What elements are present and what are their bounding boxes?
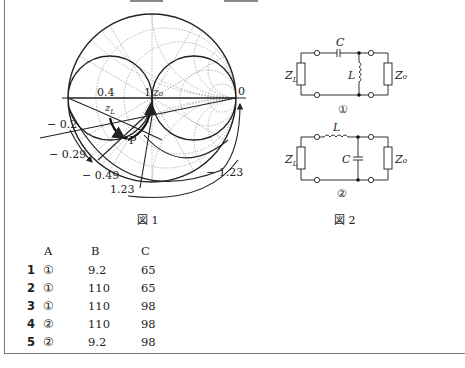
cell-a: ②	[43, 335, 54, 349]
label-neg-0.2: − 0.2	[47, 119, 77, 130]
cell-c: 98	[141, 335, 156, 349]
header-a: A	[44, 244, 52, 258]
c2-capacitor-label: C	[342, 154, 350, 165]
cell-a: ①	[43, 281, 54, 295]
c1-zl-label: ZL	[285, 70, 297, 84]
c2-zl-label: ZL	[285, 154, 297, 168]
cell-c: 65	[141, 263, 156, 277]
cell-a: ①	[43, 299, 54, 313]
label-zero: 0	[238, 86, 245, 97]
row-number: 2	[27, 281, 35, 295]
label-neg-0.29: − 0.29	[49, 149, 86, 160]
c2-z0-label: Z₀	[395, 154, 407, 165]
cell-b: 110	[88, 299, 110, 313]
cell-b: 9.2	[88, 335, 106, 349]
cell-c: 98	[141, 317, 156, 331]
label-point-p: P	[129, 135, 136, 146]
cell-b: 110	[88, 281, 110, 295]
label-r-0.4: 0.4	[97, 87, 115, 98]
cell-c: 98	[141, 299, 156, 313]
row-number: 5	[27, 335, 35, 349]
c1-capacitor-label: C	[336, 37, 344, 48]
c2-number-label: ②	[337, 188, 347, 199]
c1-number-label: ①	[338, 104, 348, 115]
cell-a: ②	[43, 317, 54, 331]
c1-inductor-label: L	[348, 70, 355, 81]
row-number: 4	[27, 317, 35, 331]
label-neg-1.23: − 1.23	[206, 167, 243, 178]
label-neg-0.49: − 0.49	[82, 170, 119, 181]
cell-c: 65	[141, 281, 156, 295]
label-r-1: 1	[144, 87, 151, 98]
row-number: 3	[27, 299, 35, 313]
cell-a: ①	[43, 263, 54, 277]
label-pos-1.23: 1.23	[110, 184, 135, 195]
label-z0: z₀	[153, 87, 163, 98]
label-zl: zL	[105, 103, 115, 116]
c1-z0-label: Z₀	[395, 70, 407, 81]
header-b: B	[91, 244, 99, 258]
cell-b: 110	[88, 317, 110, 331]
cell-b: 9.2	[88, 263, 106, 277]
row-number: 1	[27, 263, 35, 277]
c2-inductor-label: L	[333, 122, 340, 133]
header-c: C	[141, 244, 150, 258]
figure2-caption: 図 2	[334, 211, 356, 227]
figure1-caption: 図 1	[137, 211, 159, 227]
